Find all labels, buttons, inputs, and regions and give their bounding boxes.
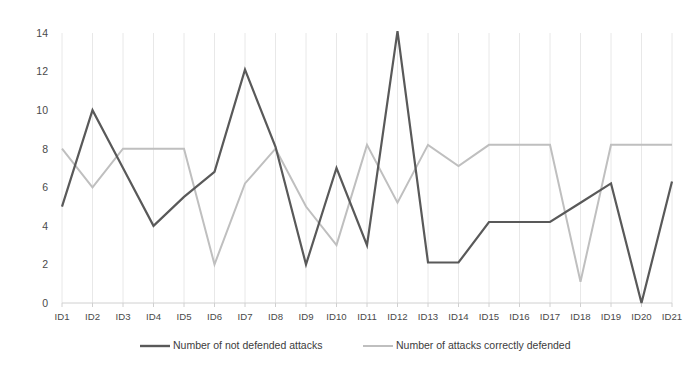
x-axis-tick-label: ID14 [448,311,469,322]
xtick-labels-group: ID1ID2ID3ID4ID5ID6ID7ID8ID9ID10ID11ID12I… [55,311,683,322]
x-axis-tick-label: ID3 [116,311,131,322]
y-axis-tick-label: 12 [36,65,48,77]
x-axis-tick-label: ID8 [268,311,283,322]
x-axis-tick-label: ID16 [509,311,529,322]
x-axis-tick-label: ID5 [177,311,192,322]
y-axis-tick-label: 14 [36,27,48,39]
x-axis-tick-label: ID2 [85,311,100,322]
y-axis-tick-label: 4 [42,220,48,232]
y-axis-tick-label: 10 [36,104,48,116]
ytick-labels-group: 02468101214 [36,27,48,309]
x-axis-tick-label: ID9 [299,311,314,322]
x-axis-tick-label: ID13 [418,311,438,322]
x-axis-tick-label: ID4 [146,311,162,322]
y-axis-tick-label: 0 [42,297,48,309]
x-axis-tick-label: ID7 [238,311,253,322]
axis-group [62,303,672,307]
gridlines-group [62,33,672,303]
x-axis-tick-label: ID18 [570,311,590,322]
legend-label[interactable]: Number of attacks correctly defended [396,339,571,351]
x-axis-tick-label: ID6 [207,311,222,322]
y-axis-tick-label: 8 [42,143,48,155]
x-axis-tick-label: ID19 [601,311,621,322]
x-axis-tick-label: ID1 [55,311,70,322]
legend-label[interactable]: Number of not defended attacks [173,339,322,351]
x-axis-tick-label: ID12 [387,311,407,322]
x-axis-tick-label: ID10 [326,311,346,322]
chart-canvas: 02468101214 ID1ID2ID3ID4ID5ID6ID7ID8ID9I… [0,0,686,369]
y-axis-tick-label: 2 [42,258,48,270]
y-axis-tick-label: 6 [42,181,48,193]
x-axis-tick-label: ID11 [357,311,377,322]
x-axis-tick-label: ID15 [479,311,499,322]
x-axis-tick-label: ID21 [662,311,682,322]
line-chart: 02468101214 ID1ID2ID3ID4ID5ID6ID7ID8ID9I… [0,0,686,369]
x-axis-tick-label: ID20 [631,311,651,322]
x-axis-tick-label: ID17 [540,311,560,322]
legend-group: Number of not defended attacksNumber of … [140,339,571,351]
